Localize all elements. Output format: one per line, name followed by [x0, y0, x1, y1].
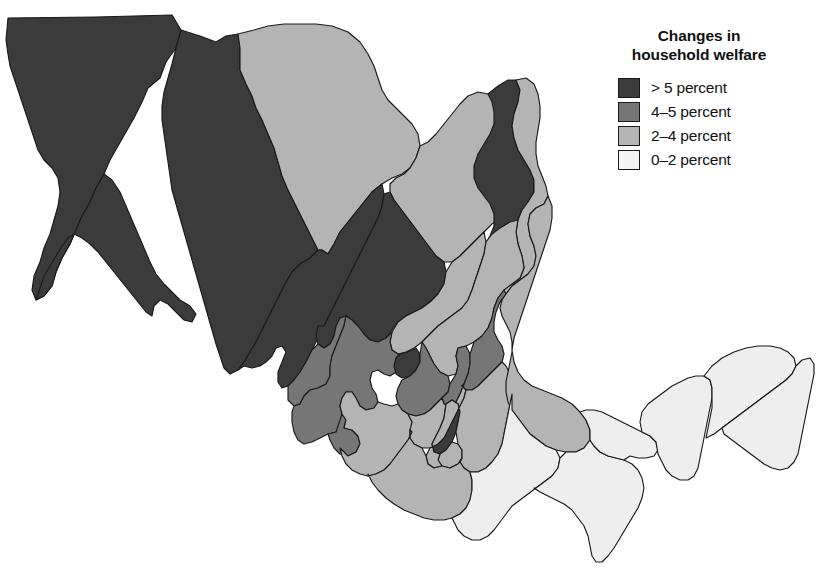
legend-label-0-2-percent: 0–2 percent [651, 151, 731, 169]
legend-item-gt-5-percent[interactable]: > 5 percent [618, 76, 806, 100]
state-campeche[interactable] [640, 376, 712, 480]
map-legend: Changes in household welfare > 5 percent… [592, 26, 806, 172]
legend-swatch-4-5-percent [618, 102, 640, 122]
legend-label-4-5-percent: 4–5 percent [651, 103, 731, 121]
legend-swatch-gt-5-percent [618, 78, 640, 98]
mexico-welfare-choropleth-figure: Changes in household welfare > 5 percent… [0, 0, 820, 569]
legend-items-list: > 5 percent 4–5 percent 2–4 percent 0–2 … [592, 76, 806, 172]
legend-item-0-2-percent[interactable]: 0–2 percent [618, 148, 806, 172]
legend-swatch-0-2-percent [618, 150, 640, 170]
legend-item-2-4-percent[interactable]: 2–4 percent [618, 124, 806, 148]
legend-title: Changes in household welfare [592, 26, 806, 64]
legend-swatch-2-4-percent [618, 126, 640, 146]
legend-item-4-5-percent[interactable]: 4–5 percent [618, 100, 806, 124]
legend-label-2-4-percent: 2–4 percent [651, 127, 731, 145]
state-baja-california[interactable] [6, 15, 181, 300]
legend-label-gt-5-percent: > 5 percent [651, 79, 727, 97]
